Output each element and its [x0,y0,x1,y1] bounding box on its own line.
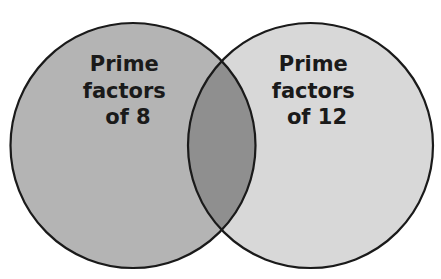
label-set-b-line-3: of 12 [287,105,347,129]
label-set-a-line-2: factors [83,79,166,103]
label-set-a-line-3: of 8 [105,105,151,129]
label-set-b-line-2: factors [272,79,355,103]
label-set-a-line-1: Prime [90,52,159,76]
venn-diagram: Prime factors of 8 Prime factors of 12 [0,0,441,279]
label-set-b-line-1: Prime [279,52,348,76]
